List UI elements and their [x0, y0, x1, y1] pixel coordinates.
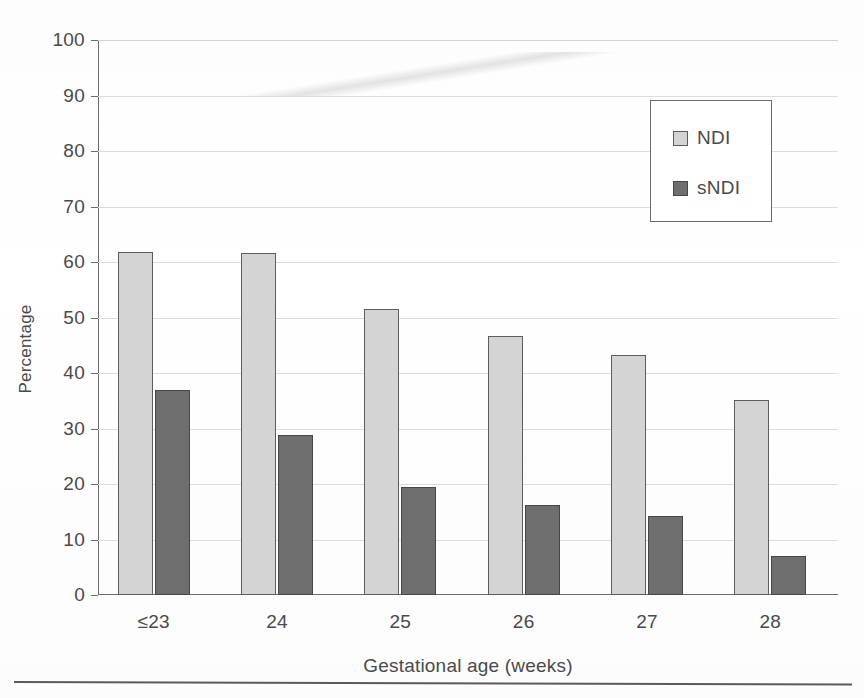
gridline [98, 96, 838, 97]
legend-swatch-ndi [673, 131, 688, 146]
y-tick-label: 40 [63, 362, 85, 384]
y-tick-label: 100 [52, 29, 85, 51]
y-tick-label: 0 [74, 584, 85, 606]
y-tick-label: 20 [63, 473, 85, 495]
legend-swatch-sndi [673, 181, 688, 196]
gridline [98, 373, 838, 374]
bar-sndi-4 [648, 516, 683, 595]
legend-item-sndi: sNDI [673, 177, 740, 199]
bar-sndi-0 [155, 390, 190, 595]
gridline [98, 429, 838, 430]
gridline [98, 484, 838, 485]
legend-box: NDI sNDI [650, 100, 772, 222]
y-tick-label: 80 [63, 140, 85, 162]
x-tick-label: 24 [266, 611, 288, 633]
x-tick-label: 27 [636, 611, 658, 633]
y-axis-title: Percentage [16, 305, 36, 394]
bar-sndi-1 [278, 435, 313, 595]
x-tick-label: 26 [513, 611, 535, 633]
x-tick-label: 28 [759, 611, 781, 633]
bar-ndi-5 [734, 400, 769, 595]
y-tick-label: 90 [63, 85, 85, 107]
figure-container: 0102030405060708090100 ≤232425262728 Per… [0, 0, 864, 698]
y-tick-mark [91, 373, 98, 374]
y-tick-mark [91, 318, 98, 319]
y-tick-mark [91, 429, 98, 430]
legend-item-ndi: NDI [673, 127, 731, 149]
legend-label-sndi: sNDI [697, 177, 740, 199]
x-tick-label: 25 [389, 611, 411, 633]
gridline [98, 40, 838, 41]
y-tick-mark [91, 96, 98, 97]
y-tick-label: 70 [63, 196, 85, 218]
gridline [98, 540, 838, 541]
bar-ndi-1 [241, 253, 276, 595]
page-divider-rule [14, 681, 852, 685]
y-tick-label: 60 [63, 251, 85, 273]
bar-ndi-0 [118, 252, 153, 595]
y-tick-mark [91, 540, 98, 541]
bar-sndi-2 [401, 487, 436, 595]
gridline [98, 318, 838, 319]
y-tick-mark [91, 40, 98, 41]
y-tick-mark [91, 595, 98, 596]
bar-ndi-2 [364, 309, 399, 595]
bar-sndi-3 [525, 505, 560, 595]
bar-ndi-4 [611, 355, 646, 595]
legend-label-ndi: NDI [697, 127, 731, 149]
y-tick-mark [91, 151, 98, 152]
bar-ndi-3 [488, 336, 523, 595]
gridline [98, 262, 838, 263]
x-tick-label: ≤23 [137, 611, 169, 633]
bar-sndi-5 [771, 556, 806, 595]
y-tick-label: 50 [63, 307, 85, 329]
y-tick-mark [91, 262, 98, 263]
y-tick-label: 10 [63, 529, 85, 551]
y-tick-mark [91, 484, 98, 485]
x-axis-title: Gestational age (weeks) [98, 655, 838, 677]
y-tick-label: 30 [63, 418, 85, 440]
y-tick-mark [91, 207, 98, 208]
